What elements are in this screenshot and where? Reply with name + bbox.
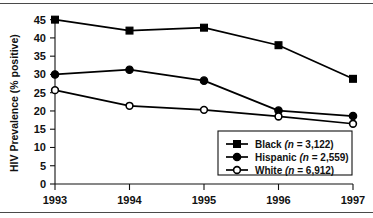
data-point (52, 16, 59, 23)
y-tick-label: 40 (34, 32, 46, 44)
y-axis-title-text: HIV Prevalence (% positive) (8, 34, 20, 172)
y-tick-label: 0 (40, 178, 46, 190)
y-tick-label: 15 (34, 123, 46, 135)
y-axis-ticks: 051015202530354045 (34, 14, 55, 190)
y-tick-label: 5 (40, 160, 46, 172)
data-point (350, 120, 357, 127)
y-tick-label: 20 (34, 105, 46, 117)
x-tick-label: 1996 (266, 194, 290, 206)
legend-label: Black (n = 3,122) (255, 139, 334, 150)
series-white (52, 87, 357, 127)
series-layer (51, 16, 356, 127)
data-point (275, 113, 282, 120)
data-point (200, 77, 207, 84)
legend-marker (234, 141, 241, 148)
x-axis-ticks: 19931994199519961997 (43, 184, 365, 206)
data-point (126, 66, 133, 73)
data-point (349, 112, 356, 119)
top-divider-rule (0, 3, 373, 4)
data-point (350, 75, 357, 82)
data-point (51, 71, 58, 78)
data-point (201, 106, 208, 113)
data-point (52, 87, 59, 94)
legend-marker (233, 153, 240, 160)
y-tick-label: 35 (34, 50, 46, 62)
legend-marker (234, 167, 241, 174)
chart-legend: Black (n = 3,122)Hispanic (n = 2,559)Whi… (218, 131, 352, 176)
y-axis-title: HIV Prevalence (% positive) (8, 34, 20, 172)
data-point (275, 42, 282, 49)
chart-figure: HIV Prevalence (% positive) 051015202530… (0, 0, 373, 218)
data-point (201, 24, 208, 31)
data-point (126, 102, 133, 109)
x-tick-label: 1994 (117, 194, 142, 206)
line-chart: HIV Prevalence (% positive) 051015202530… (0, 0, 373, 218)
y-tick-label: 45 (34, 14, 46, 26)
data-point (126, 27, 133, 34)
legend-label: White (n = 6,912) (255, 165, 334, 176)
x-tick-label: 1997 (341, 194, 365, 206)
y-tick-label: 30 (34, 68, 46, 80)
x-tick-label: 1993 (43, 194, 67, 206)
y-tick-label: 10 (34, 141, 46, 153)
bottom-divider-rule (0, 212, 373, 213)
legend-label: Hispanic (n = 2,559) (255, 152, 349, 163)
legend-items: Black (n = 3,122)Hispanic (n = 2,559)Whi… (226, 139, 349, 176)
x-tick-label: 1995 (192, 194, 216, 206)
y-tick-label: 25 (34, 87, 46, 99)
